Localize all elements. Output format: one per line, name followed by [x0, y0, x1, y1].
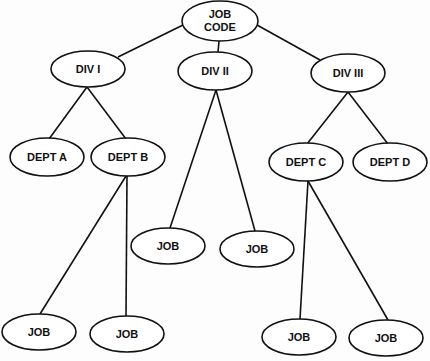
- node-job1: JOB: [131, 228, 205, 264]
- node-root: JOBCODE: [182, 1, 258, 41]
- node-label: DEPT A: [27, 151, 67, 163]
- edge-root-to-div1: [118, 25, 183, 57]
- edge-deptB-to-job4: [126, 176, 127, 316]
- node-deptA: DEPT A: [10, 138, 84, 176]
- node-label: JOB: [116, 328, 139, 340]
- edge-div1-to-deptA: [49, 87, 87, 139]
- node-label: DIV III: [333, 67, 364, 79]
- edge-root-to-div3: [257, 25, 320, 60]
- job-code-hierarchy-diagram: JOBCODEDIV IDIV IIDIV IIIDEPT ADEPT BDEP…: [0, 0, 430, 361]
- edge-deptB-to-job3: [40, 176, 126, 314]
- node-label: JOB: [28, 326, 51, 338]
- node-label: DEPT D: [370, 156, 410, 168]
- edge-deptC-to-job6: [308, 181, 388, 320]
- node-label: DIV II: [201, 65, 229, 77]
- node-label: JOB: [375, 332, 398, 344]
- edge-div2-to-job2: [216, 90, 255, 231]
- edge-div1-to-deptB: [87, 87, 126, 139]
- edge-deptC-to-job5: [300, 181, 308, 319]
- node-label: JOB: [209, 8, 232, 20]
- node-label: DEPT C: [286, 156, 326, 168]
- node-label: JOB: [157, 240, 180, 252]
- edge-div3-to-deptC: [307, 92, 348, 144]
- edge-div3-to-deptD: [348, 92, 388, 144]
- node-div2: DIV II: [178, 52, 252, 90]
- node-label: DEPT B: [108, 151, 148, 163]
- edge-root-to-div2: [218, 41, 219, 52]
- node-job5: JOB: [262, 319, 336, 355]
- node-label: DIV I: [76, 63, 100, 75]
- org-chart-canvas: JOBCODEDIV IDIV IIDIV IIIDEPT ADEPT BDEP…: [0, 0, 430, 361]
- node-deptC: DEPT C: [269, 143, 343, 181]
- edge-div2-to-job1: [170, 90, 216, 228]
- node-deptD: DEPT D: [353, 143, 427, 181]
- node-deptB: DEPT B: [91, 138, 165, 176]
- node-label: JOB: [246, 243, 269, 255]
- node-job6: JOB: [349, 320, 423, 356]
- nodes-layer: JOBCODEDIV IDIV IIDIV IIIDEPT ADEPT BDEP…: [2, 1, 427, 356]
- node-job2: JOB: [220, 231, 294, 267]
- node-label: JOB: [288, 331, 311, 343]
- node-div3: DIV III: [311, 54, 385, 92]
- node-job3: JOB: [2, 314, 76, 350]
- node-label: CODE: [204, 21, 236, 33]
- node-div1: DIV I: [51, 51, 125, 87]
- node-job4: JOB: [90, 316, 164, 352]
